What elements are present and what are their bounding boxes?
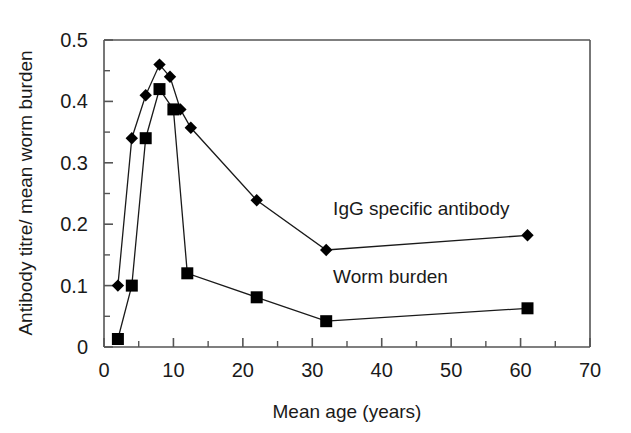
y-tick-label: 0.1 (60, 275, 88, 297)
marker-square (251, 291, 263, 303)
y-tick-label: 0.5 (60, 29, 88, 51)
marker-square (320, 315, 332, 327)
y-axis-minor-ticks (104, 71, 110, 317)
x-tick-label: 20 (232, 359, 254, 381)
marker-square (167, 103, 179, 115)
y-axis-title: Antibody titre/ mean worm burden (15, 50, 36, 335)
x-axis-tick-labels: 010203040506070 (98, 359, 601, 381)
x-tick-label: 0 (98, 359, 109, 381)
x-tick-label: 30 (301, 359, 323, 381)
marker-diamond (112, 279, 124, 291)
series-label-2: Worm burden (333, 266, 448, 287)
y-tick-label: 0.2 (60, 213, 88, 235)
x-axis-ticks (104, 338, 590, 347)
marker-diamond (320, 244, 332, 256)
marker-diamond (521, 229, 533, 241)
x-tick-label: 40 (371, 359, 393, 381)
y-tick-label: 0.4 (60, 90, 88, 112)
marker-diamond (140, 89, 152, 101)
x-tick-label: 50 (440, 359, 462, 381)
marker-square (522, 302, 534, 314)
series-label-1: IgG specific antibody (333, 198, 510, 219)
marker-square (154, 83, 166, 95)
chart-page: 00.10.20.30.40.5 010203040506070 IgG spe… (0, 0, 631, 433)
marker-square (140, 132, 152, 144)
marker-square (112, 333, 124, 345)
plot-frame (104, 40, 590, 347)
marker-diamond (126, 132, 138, 144)
y-tick-label: 0.3 (60, 152, 88, 174)
x-tick-label: 60 (509, 359, 531, 381)
x-tick-label: 70 (579, 359, 601, 381)
line-chart: 00.10.20.30.40.5 010203040506070 IgG spe… (0, 0, 631, 433)
series-annotations: IgG specific antibodyWorm burden (333, 198, 510, 287)
series-1 (112, 58, 534, 291)
x-tick-label: 10 (162, 359, 184, 381)
x-axis-title: Mean age (years) (273, 401, 422, 422)
y-axis-tick-labels: 00.10.20.30.40.5 (60, 29, 88, 358)
y-tick-label: 0 (77, 336, 88, 358)
marker-square (126, 280, 138, 292)
marker-square (181, 267, 193, 279)
